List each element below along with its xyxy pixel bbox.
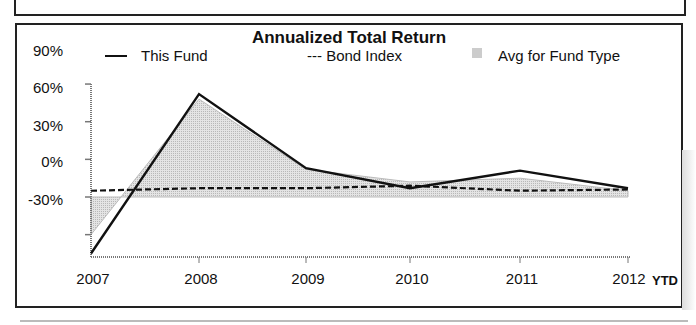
avg-fund-type-area xyxy=(91,99,628,235)
upper-panel xyxy=(14,0,686,16)
divider xyxy=(20,320,688,322)
plot-area xyxy=(17,25,681,306)
page-shadow xyxy=(682,150,696,310)
annualized-return-chart: Annualized Total Return This Fund --- Bo… xyxy=(15,23,683,308)
